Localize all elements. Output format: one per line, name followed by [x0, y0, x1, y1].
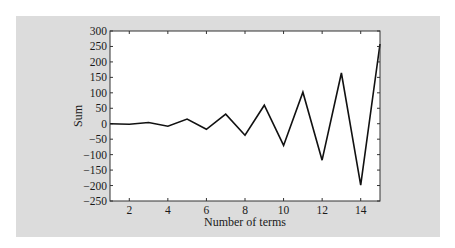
y-axis-tick-labels: −250−200−150−100−50050100150200250300	[83, 25, 107, 207]
x-tick-label: 2	[126, 204, 132, 216]
plot-area	[110, 31, 380, 201]
line-chart: −250−200−150−100−50050100150200250300 24…	[0, 0, 455, 248]
x-tick-label: 4	[165, 204, 171, 216]
y-tick-label: −150	[83, 164, 107, 176]
x-axis-label: Number of terms	[204, 215, 286, 229]
y-tick-label: −100	[83, 149, 107, 161]
x-tick-label: 12	[316, 204, 328, 216]
y-tick-label: 100	[90, 87, 108, 99]
x-tick-label: 14	[355, 204, 367, 216]
y-tick-label: 0	[101, 118, 107, 130]
y-tick-label: 150	[90, 71, 108, 83]
y-tick-label: −50	[89, 133, 107, 145]
y-tick-label: 300	[90, 25, 108, 37]
y-tick-label: −250	[83, 195, 107, 207]
y-tick-label: −200	[83, 180, 107, 192]
y-tick-label: 200	[90, 56, 108, 68]
y-axis-label: Sum	[71, 104, 85, 127]
y-tick-label: 50	[96, 102, 108, 114]
y-tick-label: 250	[90, 40, 108, 52]
